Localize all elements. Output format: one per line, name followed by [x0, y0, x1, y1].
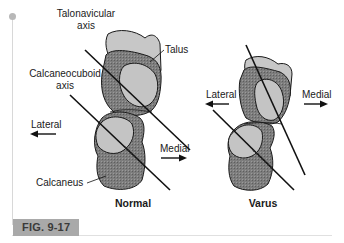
figure-caption-label: FIG. 9-17	[13, 219, 79, 236]
talus-label: Talus	[165, 44, 188, 55]
talonavicular-label: Talonavicular	[57, 8, 116, 19]
calcaneocuboid-label-axis: axis	[56, 80, 74, 91]
medial-label-normal: Medial	[160, 143, 189, 154]
normal-title: Normal	[115, 197, 151, 209]
arrow-left-icon	[205, 101, 229, 108]
medial-label-varus: Medial	[302, 89, 331, 100]
varus-panel: Lateral Medial Varus	[205, 45, 331, 209]
lateral-label-normal: Lateral	[31, 119, 62, 130]
foot-axes-diagram: Talonavicular axis Calcaneocuboid axis T…	[0, 0, 344, 243]
calcaneocuboid-label: Calcaneocuboid	[29, 68, 101, 79]
arrow-right-icon	[161, 155, 187, 162]
normal-panel: Talonavicular axis Calcaneocuboid axis T…	[29, 8, 190, 209]
varus-title: Varus	[249, 197, 278, 209]
calcaneus-label: Calcaneus	[36, 177, 83, 188]
lateral-label-varus: Lateral	[206, 89, 237, 100]
arrow-right-icon	[304, 101, 328, 108]
talonavicular-label-axis: axis	[77, 20, 95, 31]
arrow-left-icon	[30, 131, 56, 138]
